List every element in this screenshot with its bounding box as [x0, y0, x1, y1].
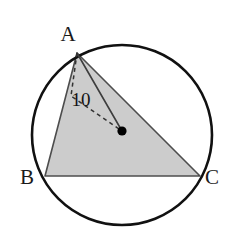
inscribed-triangle-ABC: [45, 53, 200, 176]
vertex-label-b: B: [20, 167, 34, 188]
radius-length-label: 10: [72, 90, 91, 109]
vertex-label-a: A: [60, 24, 75, 45]
vertex-label-c: C: [205, 167, 219, 188]
geometry-canvas: [0, 0, 237, 244]
geometry-figure: A B C 10: [0, 0, 237, 244]
circle-center-dot: [117, 126, 126, 135]
